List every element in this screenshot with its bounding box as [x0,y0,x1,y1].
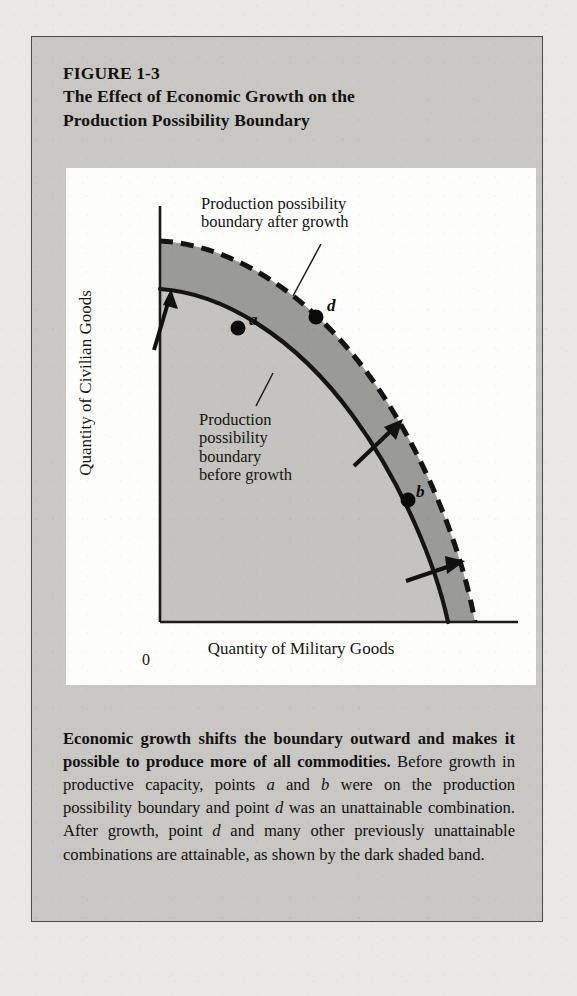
y-axis-title: Quantity of Civilian Goods [76,213,96,553]
x-axis-title: Quantity of Military Goods [66,639,536,659]
figure-number: FIGURE 1-3 [63,62,503,85]
figure-title: FIGURE 1-3 The Effect of Economic Growth… [63,62,503,132]
origin-label: 0 [142,651,150,669]
annotation-before-growth-line-2: possibility [199,429,359,447]
caption-italic-a: a [266,775,274,794]
data-point-b [401,493,416,508]
figure-heading-line-2: Production Possibility Boundary [63,109,503,132]
annotation-after-growth-line-1: Production possibility [201,195,451,213]
figure-heading-line-1: The Effect of Economic Growth on the [63,85,503,108]
annotation-after-growth: Production possibility boundary after gr… [201,195,451,232]
point-label-b: b [416,482,425,502]
data-point-d [309,310,324,325]
point-label-a: a [249,310,258,330]
caption-rest-2: and [275,775,321,794]
figure-caption: Economic growth shifts the boundary outw… [63,727,515,866]
annotation-after-growth-line-2: boundary after growth [201,213,451,231]
annotation-before-growth: Production possibility boundary before g… [199,411,359,485]
leader-line-after-growth [293,244,321,296]
caption-italic-d-2: d [212,821,220,840]
data-point-a [231,321,246,336]
plot-panel: Production possibility boundary after gr… [66,168,536,685]
annotation-before-growth-line-1: Production [199,411,359,429]
annotation-before-growth-line-3: boundary [199,448,359,466]
annotation-before-growth-line-4: before growth [199,466,359,484]
figure-box: FIGURE 1-3 The Effect of Economic Growth… [31,36,543,922]
point-label-d: d [327,296,336,316]
